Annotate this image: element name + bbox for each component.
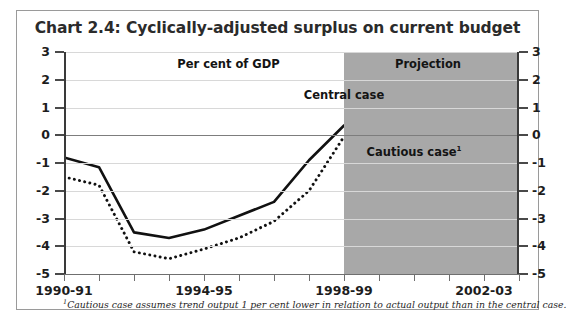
y-tick-left [55,79,64,81]
y-axis-label: -3 [28,213,50,226]
x-tick [204,274,205,281]
y-tick-left [55,107,64,109]
x-axis-label: 1994-95 [175,283,232,298]
y-tick-left [55,190,64,192]
annotation-projection: Projection [395,57,461,71]
y-tick-right [519,79,528,81]
x-tick [379,274,380,281]
x-tick [449,274,450,281]
y-axis-label: -5 [28,268,50,281]
y-tick-left [55,51,64,53]
y-tick-right [519,273,528,275]
chart-title: Chart 2.4: Cyclically-adjusted surplus o… [17,19,538,37]
y-axis-label: 0 [532,129,554,142]
y-axis-label: -2 [28,185,50,198]
y-axis-label: 2 [532,74,554,87]
y-axis-label: -4 [532,240,554,253]
x-tick [99,274,100,281]
y-tick-left [55,162,64,164]
x-axis-line [64,274,519,275]
annotation-cautious-case: Cautious case1 [367,145,462,159]
footnote-marker: 1 [457,146,462,154]
x-tick [344,274,345,281]
x-tick [169,274,170,281]
y-axis-label: 0 [28,129,50,142]
x-tick [484,274,485,281]
y-tick-right [519,218,528,220]
y-tick-right [519,107,528,109]
x-tick [64,274,65,281]
y-axis-label: -1 [532,157,554,170]
y-axis-label: -2 [532,185,554,198]
y-axis-label: -4 [28,240,50,253]
footnote-marker: 1 [63,298,67,306]
y-axis-label: 2 [28,74,50,87]
y-axis-label: -3 [532,213,554,226]
x-tick [414,274,415,281]
x-tick [134,274,135,281]
y-axis-label: 3 [28,46,50,59]
x-tick [519,274,520,281]
plot-area [64,52,519,274]
annotation-per-cent-of-gdp: Per cent of GDP [177,57,280,71]
annotation-central-case: Central case [304,88,385,102]
chart-footnote: 1Cautious case assumes trend output 1 pe… [63,298,566,310]
y-axis-label: -1 [28,157,50,170]
y-tick-right [519,245,528,247]
x-axis-label: 1998-99 [315,283,372,298]
y-axis-label: -5 [532,268,554,281]
x-tick [309,274,310,281]
x-tick [274,274,275,281]
plot-frame [64,52,519,274]
y-tick-right [519,190,528,192]
y-tick-left [55,218,64,220]
y-tick-right [519,134,528,136]
y-axis-label: 1 [28,102,50,115]
y-tick-right [519,162,528,164]
y-tick-left [55,245,64,247]
x-axis-label: 2002-03 [455,283,512,298]
x-axis-label: 1990-91 [35,283,92,298]
y-axis-label: 3 [532,46,554,59]
y-axis-label: 1 [532,102,554,115]
y-tick-right [519,51,528,53]
y-tick-left [55,134,64,136]
chart-figure: Chart 2.4: Cyclically-adjusted surplus o… [16,10,539,310]
y-tick-left [55,273,64,275]
x-tick [239,274,240,281]
